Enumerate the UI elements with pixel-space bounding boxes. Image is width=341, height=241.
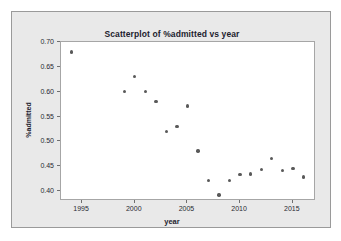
data-point (260, 168, 263, 171)
x-tick-label: 1995 (73, 205, 89, 212)
chart-title: Scatterplot of %admitted vs year (12, 29, 332, 39)
x-tick-mark (292, 200, 293, 203)
x-tick-mark (239, 200, 240, 203)
x-tick-mark (186, 200, 187, 203)
plot-area (60, 41, 315, 200)
data-point (70, 50, 73, 53)
y-tick-label: 0.40 (32, 187, 54, 194)
x-tick-label: 2005 (179, 205, 195, 212)
x-tick-label: 2015 (284, 205, 300, 212)
data-point (154, 100, 157, 103)
y-tick-label: 0.55 (32, 112, 54, 119)
data-point (133, 75, 136, 78)
data-point (186, 104, 189, 107)
data-point (281, 169, 284, 172)
y-tick-label: 0.65 (32, 62, 54, 69)
x-axis-label: year (12, 217, 332, 226)
x-tick-label: 2010 (231, 205, 247, 212)
scatter-points-layer (61, 42, 314, 199)
data-point (207, 179, 210, 182)
data-point (291, 167, 294, 170)
chart-figure: Scatterplot of %admitted vs year %admitt… (0, 0, 341, 241)
graph-panel: Scatterplot of %admitted vs year %admitt… (11, 11, 331, 228)
data-point (270, 157, 273, 160)
data-point (302, 175, 305, 178)
data-point (175, 125, 178, 128)
data-point (165, 130, 168, 133)
data-point (217, 193, 220, 196)
x-tick-mark (134, 200, 135, 203)
y-tick-label: 0.60 (32, 87, 54, 94)
y-axis-label: %admitted (25, 102, 32, 137)
y-tick-label: 0.70 (32, 38, 54, 45)
y-tick-label: 0.45 (32, 162, 54, 169)
data-point (238, 173, 241, 176)
data-point (123, 90, 126, 93)
data-point (196, 149, 199, 152)
data-point (144, 90, 147, 93)
x-tick-label: 2000 (126, 205, 142, 212)
data-point (249, 172, 252, 175)
x-tick-mark (81, 200, 82, 203)
data-point (228, 179, 231, 182)
y-tick-label: 0.50 (32, 137, 54, 144)
